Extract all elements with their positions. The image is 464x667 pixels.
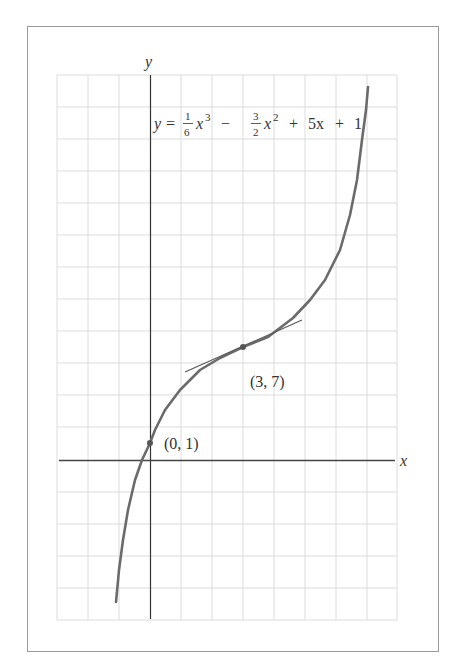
x-axis-label: x	[399, 452, 407, 469]
eq-op2: +	[289, 115, 298, 132]
equation-label: y = 1 6 x 3 − 3 2 x 2 + 5x + 1	[152, 110, 362, 138]
eq-t3: 5x	[308, 115, 324, 132]
point-0-1	[147, 440, 153, 446]
figure-frame	[28, 27, 439, 652]
point-label-0-1: (0, 1)	[164, 435, 199, 453]
eq-lhs: y	[152, 115, 162, 133]
eq-t2-var: x	[263, 115, 271, 132]
eq-t2-num: 3	[253, 110, 259, 122]
point-label-3-7: (3, 7)	[250, 373, 285, 391]
eq-t2-den: 2	[253, 126, 259, 138]
eq-t1-num: 1	[185, 110, 191, 122]
point-3-7	[240, 344, 246, 350]
eq-equals: =	[166, 115, 175, 132]
grid	[57, 75, 397, 620]
figure: y x y = 1 6 x 3 − 3 2 x 2 + 5x + 1 (0, 1…	[0, 0, 464, 667]
eq-t1-exp: 3	[205, 111, 211, 123]
eq-op3: +	[335, 115, 344, 132]
y-axis-label: y	[143, 53, 153, 71]
eq-t2-exp: 2	[273, 111, 279, 123]
eq-t1-den: 6	[184, 126, 190, 138]
eq-t4: 1	[354, 115, 362, 132]
eq-op1: −	[221, 115, 230, 132]
eq-t1-var: x	[195, 115, 203, 132]
